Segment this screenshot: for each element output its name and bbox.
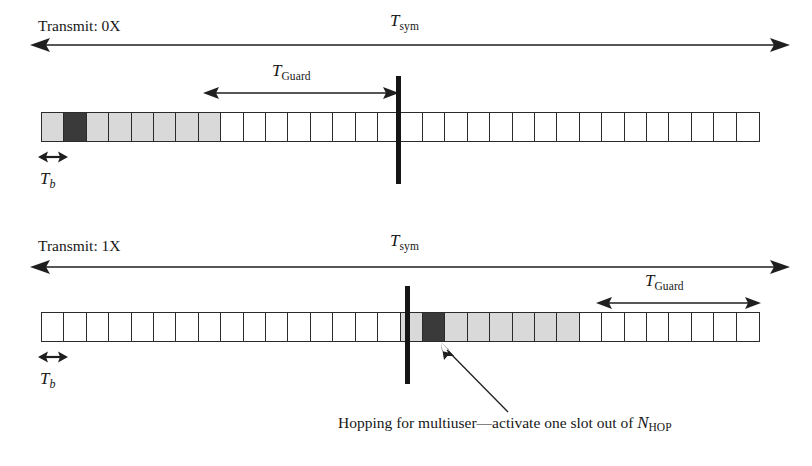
slot-cell[interactable]	[176, 113, 198, 141]
nhop-sub: HOP	[649, 421, 672, 433]
tsym-label-0x: Tsym	[390, 12, 419, 32]
symbol-boundary-divider-1x	[405, 286, 410, 384]
slot-cell[interactable]	[333, 313, 355, 341]
slot-cell[interactable]	[221, 113, 243, 141]
slot-cell[interactable]	[535, 313, 557, 341]
slot-cell[interactable]	[109, 313, 131, 341]
slot-cell[interactable]	[714, 313, 736, 341]
tsym-arrow-0x	[30, 34, 790, 56]
slot-cell[interactable]	[154, 113, 176, 141]
slot-cell[interactable]	[557, 113, 579, 141]
slot-cell[interactable]	[333, 113, 355, 141]
slot-cell[interactable]	[176, 313, 198, 341]
slot-cell[interactable]	[692, 113, 714, 141]
transmit-label-1x: Transmit: 1X	[38, 238, 121, 254]
slot-cell[interactable]	[557, 313, 579, 341]
slot-cell[interactable]	[737, 113, 759, 141]
tsym-label-1x: Tsym	[390, 232, 419, 252]
tguard-label-1x: TGuard	[645, 272, 684, 292]
tsym-sub-1x: sym	[399, 240, 418, 252]
slot-cell[interactable]	[199, 113, 221, 141]
hopping-annotation: Hopping for multiuser—activate one slot …	[338, 414, 672, 434]
slot-cell[interactable]	[692, 313, 714, 341]
slot-cell[interactable]	[132, 113, 154, 141]
tb-sub-0x: b	[49, 177, 55, 191]
slot-row-1x	[41, 312, 760, 342]
slot-cell[interactable]	[311, 113, 333, 141]
slot-cell[interactable]	[401, 113, 423, 141]
tguard-arrow-1x	[596, 294, 761, 312]
tguard-arrow-0x	[203, 84, 399, 102]
slot-cell[interactable]	[468, 113, 490, 141]
slot-cell[interactable]	[714, 113, 736, 141]
slot-cell[interactable]	[737, 313, 759, 341]
transmit-label-0x: Transmit: 0X	[38, 18, 121, 34]
tb-sub-1x: b	[49, 377, 55, 391]
slot-cell[interactable]	[535, 113, 557, 141]
slot-cell[interactable]	[244, 313, 266, 341]
slot-cell[interactable]	[513, 113, 535, 141]
slot-cell[interactable]	[109, 113, 131, 141]
slot-cell[interactable]	[132, 313, 154, 341]
slot-cell[interactable]	[669, 313, 691, 341]
slot-cell[interactable]	[199, 313, 221, 341]
slot-cell[interactable]	[87, 313, 109, 341]
tb-label-1x: Tb	[40, 370, 56, 390]
slot-cell[interactable]	[87, 113, 109, 141]
slot-cell[interactable]	[490, 113, 512, 141]
slot-cell[interactable]	[356, 113, 378, 141]
slot-cell[interactable]	[311, 313, 333, 341]
tb-arrow-1x	[38, 350, 68, 364]
slot-cell[interactable]	[221, 313, 243, 341]
tguard-sub-1x: Guard	[654, 280, 683, 292]
slot-cell[interactable]	[42, 313, 64, 341]
slot-cell[interactable]	[602, 113, 624, 141]
slot-cell[interactable]	[288, 113, 310, 141]
nhop-base: N	[637, 413, 648, 432]
tguard-label-0x: TGuard	[272, 62, 311, 82]
slot-cell[interactable]	[423, 113, 445, 141]
slot-cell[interactable]	[288, 313, 310, 341]
slot-cell[interactable]	[42, 113, 64, 141]
slot-cell[interactable]	[625, 313, 647, 341]
tguard-sub-0x: Guard	[281, 70, 310, 82]
hopping-annotation-text: Hopping for multiuser—activate one slot …	[338, 414, 637, 431]
tb-label-0x: Tb	[40, 170, 56, 190]
slot-cell[interactable]	[244, 113, 266, 141]
slot-cell[interactable]	[647, 113, 669, 141]
slot-cell[interactable]	[580, 313, 602, 341]
slot-cell[interactable]	[602, 313, 624, 341]
symbol-boundary-divider-0x	[396, 76, 401, 184]
figure-canvas: Transmit: 0X Tsym TGuard	[0, 0, 812, 466]
slot-cell[interactable]	[378, 313, 400, 341]
tsym-sub-0x: sym	[399, 20, 418, 32]
slot-cell-active[interactable]	[64, 113, 86, 141]
slot-cell[interactable]	[625, 113, 647, 141]
slot-cell[interactable]	[266, 113, 288, 141]
slot-cell[interactable]	[356, 313, 378, 341]
slot-cell[interactable]	[64, 313, 86, 341]
callout-arrow	[420, 336, 530, 416]
slot-cell[interactable]	[580, 113, 602, 141]
tb-arrow-0x	[38, 150, 68, 164]
slot-cell[interactable]	[669, 113, 691, 141]
slot-cell[interactable]	[266, 313, 288, 341]
slot-cell[interactable]	[647, 313, 669, 341]
slot-cell[interactable]	[445, 113, 467, 141]
slot-cell[interactable]	[154, 313, 176, 341]
